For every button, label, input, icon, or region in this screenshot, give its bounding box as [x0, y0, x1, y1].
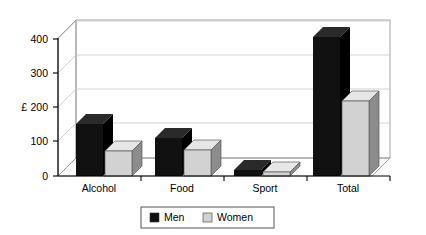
bar-total-women [342, 91, 379, 176]
y-tick-label-300: 300 [30, 67, 48, 79]
y-tick-label-200: 200 [30, 101, 48, 113]
legend-label-men: Men [164, 211, 185, 223]
y-tick-label-400: 400 [30, 33, 48, 45]
legend-label-women: Women [217, 211, 253, 223]
y-tick-label-100: 100 [30, 135, 48, 147]
legend-swatch-women [203, 213, 212, 222]
chart-canvas: 400 300 200 100 0 £ Alcohol Food Sport T… [0, 0, 426, 235]
x-category-label-total: Total [337, 182, 359, 194]
legend-swatch-men [150, 213, 159, 222]
x-category-label-alcohol: Alcohol [82, 182, 116, 194]
y-tick-label-0: 0 [42, 170, 48, 182]
bar-alcohol-women [105, 141, 142, 176]
x-category-label-sport: Sport [252, 182, 277, 194]
bar-chart-figure: 400 300 200 100 0 £ Alcohol Food Sport T… [0, 0, 426, 235]
bar-group-sport [234, 160, 300, 176]
bar-food-women [184, 140, 221, 176]
legend: Men Women [141, 207, 274, 228]
y-axis-unit-label: £ [21, 101, 27, 113]
x-category-label-food: Food [170, 182, 194, 194]
